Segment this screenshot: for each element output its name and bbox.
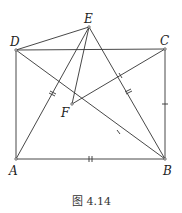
label-D: D xyxy=(9,35,20,49)
label-F: F xyxy=(60,106,70,120)
vertex-C xyxy=(164,48,166,50)
tick-FB xyxy=(117,130,120,134)
label-C: C xyxy=(160,34,169,48)
figure-caption: 图 4.14 xyxy=(72,195,111,208)
label-E: E xyxy=(83,12,93,26)
vertex-B xyxy=(164,158,166,160)
vertex-A xyxy=(15,158,17,160)
label-B: B xyxy=(162,164,172,178)
vertex-F xyxy=(71,103,73,105)
label-A: A xyxy=(8,164,18,178)
segment-FC xyxy=(72,49,165,104)
segment-CD xyxy=(16,49,165,50)
segment-DB xyxy=(16,50,165,159)
geometry-figure: A B C D E F 图 4.14 xyxy=(0,0,182,213)
vertex-D xyxy=(15,49,17,51)
vertex-E xyxy=(88,26,90,28)
segments xyxy=(16,27,165,159)
